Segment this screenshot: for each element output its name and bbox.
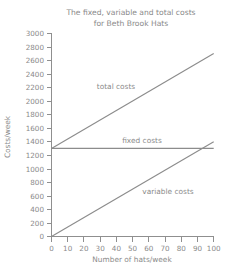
chart-container: The fixed, variable and total costs for …	[0, 0, 227, 269]
total-costs-label: total costs	[97, 82, 136, 91]
x-tick-label: 30	[96, 244, 106, 253]
variable-costs-label: variable costs	[142, 187, 193, 196]
y-tick-label: 3000	[26, 29, 45, 38]
y-tick-label: 800	[30, 178, 44, 187]
chart-title-line-1: The fixed, variable and total costs	[65, 8, 195, 17]
y-tick-label: 400	[30, 205, 44, 214]
y-tick-label: 1800	[26, 110, 45, 119]
x-tick-label: 80	[177, 244, 187, 253]
total-costs-line	[52, 54, 214, 149]
y-tick-label: 1600	[26, 124, 45, 133]
x-tick-label: 40	[112, 244, 122, 253]
y-tick-label: 1400	[26, 137, 45, 146]
x-tick-label: 0	[49, 244, 54, 253]
x-axis-title: Number of hats/week	[92, 255, 172, 264]
y-axis-ticks: 3000 2800 2600 2400 2200 2000 1800 1600 …	[26, 29, 52, 241]
y-tick-label: 2600	[26, 56, 45, 65]
x-tick-label: 90	[193, 244, 203, 253]
y-tick-label: 1200	[26, 151, 45, 160]
x-tick-label: 10	[63, 244, 73, 253]
y-tick-label: 2400	[26, 70, 45, 79]
y-tick-label: 2200	[26, 83, 45, 92]
cost-line-chart: The fixed, variable and total costs for …	[0, 0, 227, 269]
y-tick-label: 600	[30, 192, 44, 201]
y-tick-label: 0	[39, 232, 44, 241]
x-tick-label: 20	[79, 244, 89, 253]
y-tick-label: 200	[30, 219, 44, 228]
y-tick-label: 2800	[26, 43, 45, 52]
fixed-costs-label: fixed costs	[122, 136, 162, 145]
y-tick-label: 2000	[26, 97, 45, 106]
y-tick-label: 1000	[26, 165, 45, 174]
x-tick-label: 60	[144, 244, 154, 253]
x-axis-ticks: 0 10 20 30 40 50 60 70 80 90 100	[49, 237, 221, 253]
x-tick-label: 50	[128, 244, 138, 253]
x-tick-label: 100	[207, 244, 221, 253]
y-axis-title: Costs/week	[3, 115, 12, 158]
x-tick-label: 70	[161, 244, 171, 253]
chart-title-line-2: for Beth Brook Hats	[94, 19, 169, 28]
